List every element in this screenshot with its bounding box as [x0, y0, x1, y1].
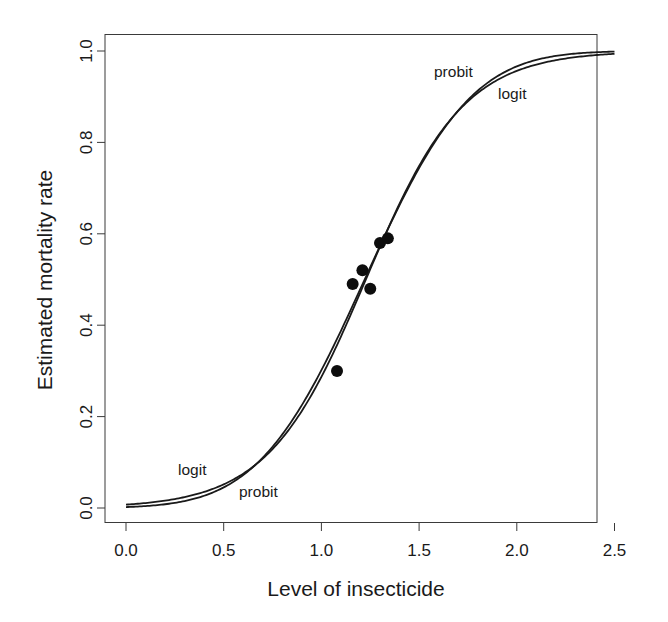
chart: 0.0 0.5 1.0 1.5 2.0 2.5 Level of insecti… [0, 0, 668, 622]
data-point [331, 365, 343, 377]
logit-curve-label-low: logit [178, 461, 207, 478]
y-tick-label: 0.8 [77, 131, 96, 155]
x-tick-label: 0.5 [212, 541, 236, 560]
x-tick-label: 1.0 [310, 541, 334, 560]
y-tick-label: 0.6 [77, 222, 96, 246]
data-point [382, 232, 394, 244]
x-tick-label: 2.0 [505, 541, 529, 560]
observed-points [331, 232, 394, 377]
x-tick-label: 1.5 [407, 541, 431, 560]
y-tick-label: 0.0 [77, 496, 96, 520]
logit-curve [126, 54, 615, 505]
x-axis-label: Level of insecticide [267, 577, 444, 600]
data-point [356, 264, 368, 276]
y-axis: 0.0 0.2 0.4 0.6 0.8 1.0 Estimated mortal… [33, 39, 105, 520]
x-axis: 0.0 0.5 1.0 1.5 2.0 2.5 Level of insecti… [114, 523, 626, 600]
logit-curve-label-high: logit [498, 85, 527, 102]
y-tick-label: 0.2 [77, 405, 96, 429]
probit-curve-label-high: probit [434, 63, 473, 80]
x-tick-label: 2.5 [603, 541, 627, 560]
x-tick-label: 0.0 [114, 541, 138, 560]
data-point [364, 283, 376, 295]
data-point [347, 278, 359, 290]
y-tick-label: 0.4 [77, 313, 96, 337]
probit-curve-label-low: probit [239, 483, 278, 500]
y-axis-label: Estimated mortality rate [33, 170, 56, 391]
probit-curve [126, 52, 615, 507]
y-tick-label: 1.0 [77, 39, 96, 63]
